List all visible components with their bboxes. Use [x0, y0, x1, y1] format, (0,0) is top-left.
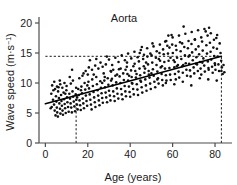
data-point — [215, 37, 218, 40]
data-point — [124, 90, 127, 93]
data-point — [130, 57, 133, 60]
data-point — [162, 53, 165, 56]
data-point — [94, 64, 97, 67]
data-point — [71, 69, 74, 72]
data-points — [49, 25, 225, 118]
data-point — [147, 70, 150, 73]
data-point — [90, 108, 93, 111]
data-point — [91, 78, 94, 81]
x-tick-label: 40 — [124, 148, 136, 160]
data-point — [145, 61, 148, 64]
data-point — [185, 69, 188, 72]
y-axis-label: Wave speed (m·s−1) — [4, 33, 16, 130]
data-point — [193, 72, 196, 75]
data-point — [169, 73, 172, 76]
data-point — [218, 42, 221, 45]
data-point — [71, 111, 74, 114]
data-point — [117, 97, 120, 100]
data-point — [140, 49, 143, 52]
data-point — [83, 107, 86, 110]
data-point — [149, 52, 152, 55]
data-point — [80, 89, 83, 92]
data-point — [168, 67, 171, 70]
data-point — [191, 51, 194, 54]
data-point — [170, 34, 173, 37]
data-point — [167, 60, 170, 63]
data-point — [141, 91, 144, 94]
data-point — [53, 109, 56, 112]
data-point — [214, 69, 217, 72]
data-point — [93, 101, 96, 104]
data-point — [106, 55, 109, 58]
data-point — [211, 72, 214, 75]
data-point — [63, 103, 66, 106]
data-point — [58, 102, 61, 105]
data-point — [221, 66, 224, 69]
data-point — [126, 61, 129, 64]
data-point — [172, 52, 175, 55]
data-point — [114, 57, 117, 60]
data-point — [81, 75, 84, 78]
data-point — [75, 87, 78, 90]
data-point — [156, 78, 159, 81]
data-point — [72, 79, 75, 82]
data-point — [119, 67, 122, 70]
data-point — [165, 79, 168, 82]
data-point — [139, 74, 142, 77]
data-point — [106, 77, 109, 80]
data-point — [176, 57, 179, 60]
data-point — [96, 83, 99, 86]
data-point — [112, 69, 115, 72]
data-point — [203, 28, 206, 31]
data-point — [167, 52, 170, 55]
data-point — [85, 100, 88, 103]
data-point — [64, 93, 67, 96]
data-point — [98, 104, 101, 107]
data-point — [127, 52, 130, 55]
data-point — [120, 93, 123, 96]
data-point — [56, 106, 59, 109]
data-point — [216, 48, 219, 51]
data-point — [180, 58, 183, 61]
data-point — [166, 45, 169, 48]
data-point — [128, 85, 131, 88]
data-point — [109, 70, 112, 73]
data-point — [141, 46, 144, 49]
data-point — [186, 75, 189, 78]
data-point — [171, 36, 174, 39]
data-point — [191, 59, 194, 62]
data-point — [209, 51, 212, 54]
data-point — [113, 100, 116, 103]
data-point — [157, 82, 160, 85]
data-point — [162, 84, 165, 87]
data-point — [219, 52, 222, 55]
y-tick-label: 20 — [20, 17, 32, 29]
data-point — [175, 45, 178, 48]
data-point — [203, 64, 206, 67]
data-point — [115, 81, 118, 84]
data-point — [50, 93, 53, 96]
data-point — [182, 81, 185, 84]
data-point — [131, 82, 134, 85]
data-point — [79, 104, 82, 107]
data-point — [209, 42, 212, 45]
data-point — [137, 94, 140, 97]
data-point — [211, 66, 214, 69]
data-point — [90, 103, 93, 106]
data-point — [204, 30, 207, 33]
data-point — [109, 94, 112, 97]
data-point — [98, 99, 101, 102]
data-point — [132, 88, 135, 91]
data-point — [65, 85, 68, 88]
data-point — [99, 61, 102, 64]
data-point — [169, 57, 172, 60]
data-point — [144, 78, 147, 81]
data-point — [49, 107, 52, 110]
data-point — [88, 87, 91, 90]
x-tick-label: 20 — [82, 148, 94, 160]
data-point — [86, 73, 89, 76]
data-point — [116, 73, 119, 76]
data-point — [116, 93, 119, 96]
data-point — [182, 72, 185, 75]
data-point — [136, 56, 139, 59]
